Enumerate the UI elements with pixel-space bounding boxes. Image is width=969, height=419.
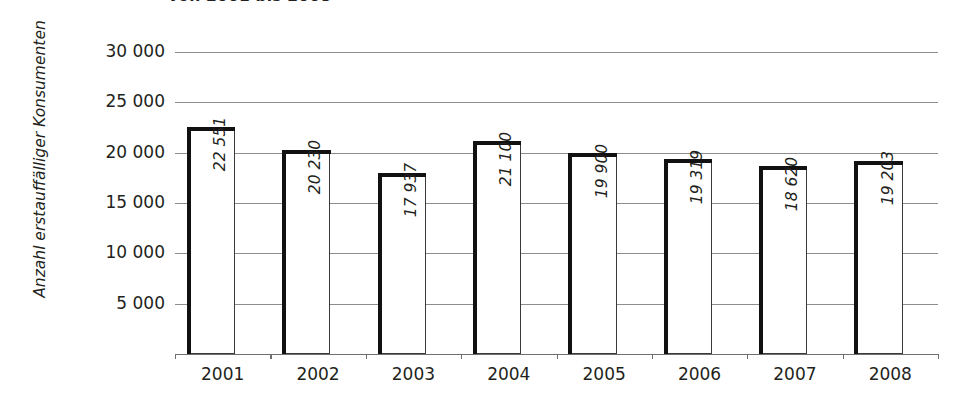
- bar-value-label: 21 100: [497, 131, 515, 185]
- x-axis-tick: [938, 354, 939, 359]
- x-axis-tick: [461, 354, 462, 359]
- x-axis-tick-label: 2007: [747, 364, 842, 384]
- x-axis-tick: [843, 354, 844, 359]
- bars-layer: 22 551200120 230200217 937200321 1002004…: [0, 0, 969, 419]
- bar-value-label: 22 551: [211, 117, 229, 171]
- x-axis-tick: [270, 354, 271, 359]
- bar[interactable]: 19 900: [569, 154, 617, 354]
- x-axis-tick-label: 2001: [175, 364, 270, 384]
- bar[interactable]: 19 203: [855, 161, 903, 354]
- bar-value-label: 19 203: [879, 151, 897, 205]
- x-axis-tick-label: 2002: [270, 364, 365, 384]
- x-axis-tick: [175, 354, 176, 359]
- bar[interactable]: 19 319: [664, 160, 712, 354]
- x-axis-tick-label: 2003: [366, 364, 461, 384]
- bar[interactable]: 18 620: [759, 167, 807, 354]
- bar-value-label: 18 620: [783, 156, 801, 210]
- bar-value-label: 19 319: [688, 149, 706, 203]
- x-axis-tick: [747, 354, 748, 359]
- bar[interactable]: 21 100: [473, 142, 521, 354]
- x-axis-tick: [652, 354, 653, 359]
- x-axis-tick-label: 2006: [652, 364, 747, 384]
- x-axis-tick: [366, 354, 367, 359]
- bar-value-label: 20 230: [306, 140, 324, 194]
- x-axis-tick-label: 2005: [557, 364, 652, 384]
- x-axis-tick: [557, 354, 558, 359]
- bar[interactable]: 20 230: [282, 150, 330, 354]
- bar[interactable]: 22 551: [187, 127, 235, 354]
- x-axis-tick-label: 2004: [461, 364, 556, 384]
- bar-chart: von 2001 bis 2008 Anzahl erstauffälliger…: [0, 0, 969, 419]
- bar-value-label: 17 937: [402, 163, 420, 217]
- x-axis-tick-label: 2008: [843, 364, 938, 384]
- bar-value-label: 19 900: [593, 144, 611, 198]
- bar[interactable]: 17 937: [378, 173, 426, 354]
